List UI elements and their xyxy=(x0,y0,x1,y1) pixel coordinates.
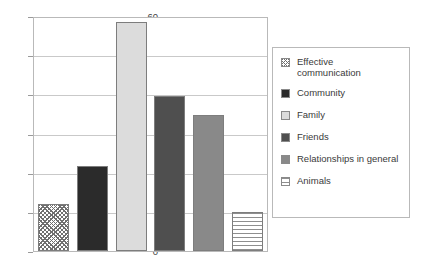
legend-item-label: Animals xyxy=(297,175,331,186)
legend-swatch-icon xyxy=(281,111,290,120)
bar xyxy=(232,212,263,251)
bars-layer xyxy=(34,18,267,251)
legend: Effective communicationCommunityFamilyFr… xyxy=(272,47,410,218)
legend-swatch-icon xyxy=(281,155,290,164)
legend-item[interactable]: Community xyxy=(281,87,403,100)
bar xyxy=(116,22,147,251)
legend-item[interactable]: Friends xyxy=(281,131,403,144)
legend-item-label: Community xyxy=(297,87,345,98)
legend-item[interactable]: Animals xyxy=(281,175,403,188)
legend-item-label: Relationships in general xyxy=(297,153,398,164)
bar xyxy=(154,96,185,251)
bar xyxy=(193,115,224,251)
bar xyxy=(38,204,69,251)
legend-swatch-icon xyxy=(281,133,290,142)
legend-list: Effective communicationCommunityFamilyFr… xyxy=(281,56,403,197)
legend-swatch-icon xyxy=(281,89,290,98)
y-axis-tick-mark xyxy=(28,252,33,253)
legend-item[interactable]: Effective communication xyxy=(281,56,403,78)
legend-item[interactable]: Family xyxy=(281,109,403,122)
legend-item-label: Effective communication xyxy=(297,56,361,78)
bar-chart: 6050403020100 Effective communicationCom… xyxy=(0,0,429,263)
legend-swatch-icon xyxy=(281,58,290,67)
bar xyxy=(77,166,108,251)
legend-item[interactable]: Relationships in general xyxy=(281,153,403,166)
legend-item-label: Friends xyxy=(297,131,329,142)
legend-swatch-icon xyxy=(281,177,290,186)
legend-item-label: Family xyxy=(297,109,325,120)
